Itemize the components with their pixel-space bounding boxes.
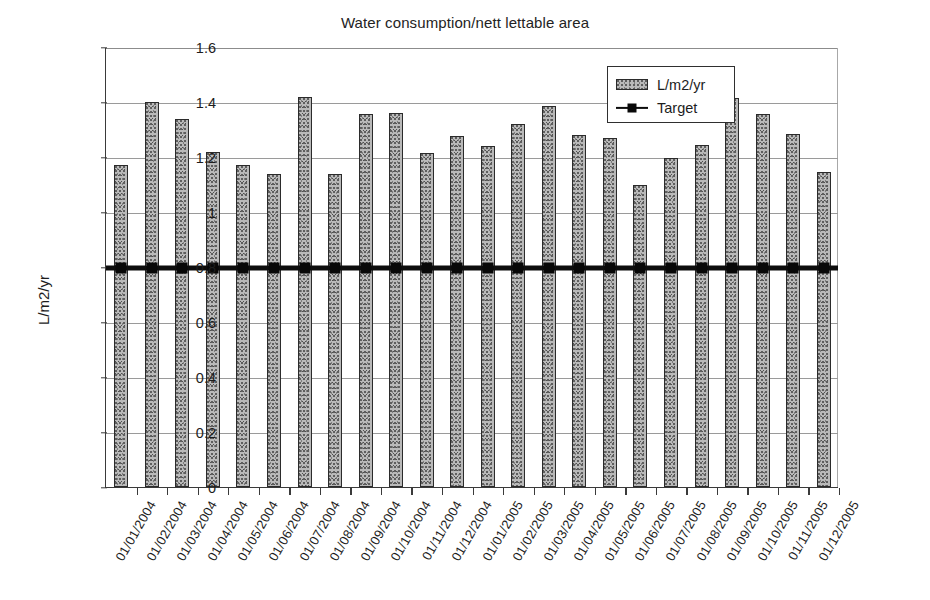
bar bbox=[542, 106, 556, 487]
bar bbox=[603, 138, 617, 487]
chart-legend: L/m2/yr Target bbox=[607, 66, 735, 123]
target-marker bbox=[727, 263, 738, 274]
x-tick-mark bbox=[442, 488, 443, 495]
x-tick-mark bbox=[808, 488, 809, 495]
x-tick-mark bbox=[350, 488, 351, 495]
x-tick-mark bbox=[778, 488, 779, 495]
target-marker bbox=[604, 263, 615, 274]
bar bbox=[298, 97, 312, 488]
y-tick-label: 1 bbox=[156, 205, 216, 221]
legend-label-target: Target bbox=[657, 100, 697, 116]
x-tick-mark bbox=[564, 488, 565, 495]
y-tick-label: 0.4 bbox=[156, 370, 216, 386]
y-tick-mark bbox=[101, 377, 107, 378]
x-tick-mark bbox=[747, 488, 748, 495]
bar bbox=[328, 174, 342, 488]
y-tick-label: 1.4 bbox=[156, 95, 216, 111]
target-marker bbox=[543, 263, 554, 274]
target-marker bbox=[360, 263, 371, 274]
target-marker bbox=[238, 263, 249, 274]
x-tick-mark bbox=[320, 488, 321, 495]
chart-title: Water consumption/nett lettable area bbox=[0, 14, 930, 31]
bar bbox=[725, 98, 739, 487]
y-tick-mark bbox=[101, 487, 107, 488]
x-tick-mark bbox=[595, 488, 596, 495]
x-tick-mark bbox=[289, 488, 290, 495]
x-tick-mark bbox=[503, 488, 504, 495]
target-marker bbox=[696, 263, 707, 274]
x-tick-mark bbox=[656, 488, 657, 495]
y-tick-mark bbox=[101, 432, 107, 433]
x-tick-mark bbox=[534, 488, 535, 495]
y-tick-mark bbox=[101, 322, 107, 323]
bar bbox=[695, 145, 709, 487]
bar bbox=[389, 113, 403, 487]
bar bbox=[114, 165, 128, 487]
x-tick-mark bbox=[137, 488, 138, 495]
y-tick-label: 0.2 bbox=[156, 425, 216, 441]
bar bbox=[359, 114, 373, 487]
x-tick-mark bbox=[381, 488, 382, 495]
target-marker bbox=[635, 263, 646, 274]
target-marker bbox=[299, 263, 310, 274]
x-tick-mark bbox=[717, 488, 718, 495]
target-marker bbox=[116, 263, 127, 274]
x-tick-mark bbox=[839, 488, 840, 495]
y-tick-label: 0 bbox=[156, 480, 216, 496]
target-marker bbox=[391, 263, 402, 274]
x-tick-mark bbox=[228, 488, 229, 495]
legend-swatch-bar-icon bbox=[616, 79, 648, 90]
bar bbox=[236, 165, 250, 487]
y-tick-label: 0.6 bbox=[156, 315, 216, 331]
target-marker bbox=[330, 263, 341, 274]
target-marker bbox=[574, 263, 585, 274]
x-tick-mark bbox=[625, 488, 626, 495]
y-tick-label: 1.2 bbox=[156, 150, 216, 166]
target-marker bbox=[482, 263, 493, 274]
bar bbox=[572, 135, 586, 487]
y-axis-title: L/m2/yr bbox=[35, 275, 52, 325]
x-tick-mark bbox=[259, 488, 260, 495]
target-marker bbox=[818, 263, 829, 274]
x-tick-mark bbox=[473, 488, 474, 495]
x-tick-mark bbox=[686, 488, 687, 495]
y-tick-mark bbox=[101, 212, 107, 213]
y-tick-label: 1.6 bbox=[156, 40, 216, 56]
y-tick-label: 0.8 bbox=[156, 260, 216, 276]
bar bbox=[511, 124, 525, 487]
chart-container: Water consumption/nett lettable area L/m… bbox=[0, 0, 930, 600]
target-marker bbox=[452, 263, 463, 274]
target-marker bbox=[421, 263, 432, 274]
legend-label-bar: L/m2/yr bbox=[657, 77, 705, 93]
y-tick-mark bbox=[101, 102, 107, 103]
y-tick-mark bbox=[101, 47, 107, 48]
target-marker bbox=[268, 263, 279, 274]
target-marker bbox=[788, 263, 799, 274]
bar bbox=[481, 146, 495, 487]
bar bbox=[664, 158, 678, 487]
bar bbox=[786, 134, 800, 487]
bar bbox=[420, 153, 434, 487]
bar bbox=[817, 172, 831, 487]
target-marker bbox=[513, 263, 524, 274]
legend-entry-target: Target bbox=[616, 96, 726, 119]
bar bbox=[267, 174, 281, 488]
legend-entry-bar: L/m2/yr bbox=[616, 73, 726, 96]
bar bbox=[756, 114, 770, 487]
bar bbox=[450, 136, 464, 487]
target-marker bbox=[757, 263, 768, 274]
target-marker bbox=[666, 263, 677, 274]
bar bbox=[633, 185, 647, 488]
x-tick-mark bbox=[411, 488, 412, 495]
legend-swatch-line-marker-icon bbox=[616, 102, 648, 113]
y-tick-mark bbox=[101, 157, 107, 158]
